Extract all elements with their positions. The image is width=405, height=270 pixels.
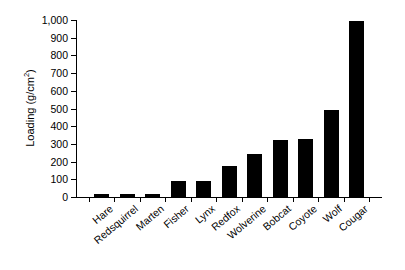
- y-axis-tick-label: 700: [8, 68, 68, 79]
- bar: [94, 194, 109, 197]
- x-axis-tick: [267, 198, 268, 202]
- bar: [273, 140, 288, 197]
- y-axis-tick-label: 600: [8, 86, 68, 97]
- bar: [120, 194, 135, 197]
- bar: [196, 181, 211, 197]
- bar: [171, 181, 186, 197]
- y-axis-tick-label: 100: [8, 174, 68, 185]
- y-axis-tick-label: 800: [8, 50, 68, 61]
- y-axis-tick: [71, 197, 76, 198]
- y-axis-tick-label: 300: [8, 139, 68, 150]
- x-axis-line: [76, 197, 382, 198]
- y-axis-tick-label: 200: [8, 157, 68, 168]
- x-axis-tick: [318, 198, 319, 202]
- bar: [247, 154, 262, 197]
- x-axis-tick: [89, 198, 90, 202]
- bar: [324, 110, 339, 197]
- plot-area: [76, 20, 382, 197]
- x-axis-tick: [242, 198, 243, 202]
- y-axis-tick-label: 0: [8, 192, 68, 203]
- x-axis-tick: [369, 198, 370, 202]
- bar: [298, 139, 313, 197]
- x-axis-tick: [344, 198, 345, 202]
- y-axis-tick-label: 400: [8, 121, 68, 132]
- bar-chart: Loading (g/cm2) 010020030040050060070080…: [0, 0, 405, 270]
- x-axis-tick: [114, 198, 115, 202]
- x-axis-tick: [140, 198, 141, 202]
- y-axis-tick-label: 900: [8, 33, 68, 44]
- bar: [145, 194, 160, 197]
- x-axis-tick: [293, 198, 294, 202]
- x-axis-tick: [165, 198, 166, 202]
- y-axis-tick-label: 1,000: [8, 15, 68, 26]
- bar: [349, 21, 364, 197]
- bar: [222, 166, 237, 197]
- x-axis-tick: [216, 198, 217, 202]
- y-axis-tick-label: 500: [8, 104, 68, 115]
- x-axis-tick: [191, 198, 192, 202]
